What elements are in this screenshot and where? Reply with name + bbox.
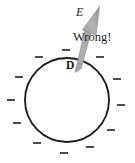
diagram-canvas (0, 0, 135, 163)
field-vector-label: E (76, 6, 83, 18)
point-d-label: D (66, 60, 74, 72)
wrong-annotation-label: Wrong! (73, 31, 111, 44)
physics-field-diagram: E Wrong! D (0, 0, 135, 163)
